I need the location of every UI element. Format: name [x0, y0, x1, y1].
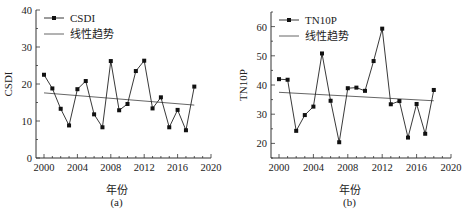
- data-point-marker: [126, 102, 130, 106]
- y-tick-label: 30: [257, 109, 268, 120]
- data-point-marker: [92, 112, 96, 116]
- data-point-marker: [75, 87, 79, 91]
- y-tick-label: 40: [22, 5, 33, 16]
- chart-panel-a: 200020042008201220162020010203040CSDICSD…: [0, 0, 233, 214]
- data-point-marker: [286, 78, 290, 82]
- data-point-marker: [329, 99, 333, 103]
- y-axis-title: TN10P: [237, 69, 249, 101]
- x-tick-label: 2000: [34, 162, 55, 173]
- data-point-marker: [363, 89, 367, 93]
- y-tick-label: 20: [257, 138, 268, 149]
- x-tick-label: 2016: [406, 162, 427, 173]
- data-point-marker: [151, 106, 155, 110]
- data-point-marker: [380, 27, 384, 31]
- trend-line: [279, 92, 434, 100]
- data-point-marker: [176, 108, 180, 112]
- data-point-marker: [67, 123, 71, 127]
- data-point-marker: [311, 105, 315, 109]
- data-point-marker: [415, 102, 419, 106]
- data-point-marker: [167, 125, 171, 129]
- y-tick-label: 60: [257, 22, 268, 33]
- x-tick-label: 2012: [372, 162, 393, 173]
- data-point-marker: [50, 86, 54, 90]
- data-point-marker: [346, 86, 350, 90]
- y-tick-label: 50: [257, 51, 268, 62]
- legend-trend-label: 线性趋势: [305, 29, 349, 43]
- data-point-marker: [277, 77, 281, 81]
- legend-series-label: TN10P: [305, 14, 337, 26]
- data-point-marker: [423, 132, 427, 136]
- y-tick-label: 10: [22, 116, 33, 127]
- y-tick-label: 20: [22, 79, 33, 90]
- data-point-marker: [372, 59, 376, 63]
- data-line: [279, 29, 434, 143]
- x-tick-label: 2000: [269, 162, 290, 173]
- x-tick-label: 2004: [303, 162, 325, 173]
- data-point-marker: [84, 79, 88, 83]
- data-point-marker: [134, 69, 138, 73]
- x-tick-label: 2020: [441, 162, 462, 173]
- data-point-marker: [59, 107, 63, 111]
- panel-label-b: (b): [233, 196, 466, 208]
- y-tick-label: 30: [22, 42, 33, 53]
- data-point-marker: [117, 108, 121, 112]
- x-tick-label: 2016: [167, 162, 188, 173]
- y-axis-title: CSDI: [2, 71, 14, 96]
- x-tick-label: 2012: [134, 162, 155, 173]
- data-point-marker: [109, 59, 113, 63]
- data-line: [44, 61, 194, 131]
- data-point-marker: [320, 51, 324, 55]
- x-tick-label: 2020: [201, 162, 222, 173]
- data-point-marker: [184, 128, 188, 132]
- legend-series-label: CSDI: [70, 12, 95, 24]
- chart-panel-b: 2000200420082012201620202030405060TN10PT…: [233, 0, 466, 214]
- data-point-marker: [406, 136, 410, 140]
- x-tick-label: 2004: [67, 162, 89, 173]
- data-point-marker: [142, 59, 146, 63]
- data-point-marker: [42, 73, 46, 77]
- data-point-marker: [354, 86, 358, 90]
- x-tick-label: 2008: [100, 162, 121, 173]
- data-point-marker: [294, 129, 298, 133]
- data-point-marker: [192, 85, 196, 89]
- data-point-marker: [337, 140, 341, 144]
- data-point-marker: [100, 125, 104, 129]
- trend-line: [44, 93, 194, 105]
- data-point-marker: [389, 102, 393, 106]
- y-tick-label: 40: [257, 80, 268, 91]
- data-point-marker: [159, 95, 163, 99]
- x-axis-title-b: 年份: [233, 181, 466, 197]
- x-tick-label: 2008: [337, 162, 358, 173]
- x-axis-title-a: 年份: [0, 181, 233, 197]
- panel-label-a: (a): [0, 196, 233, 208]
- data-point-marker: [303, 113, 307, 117]
- data-point-marker: [432, 88, 436, 92]
- data-point-marker: [397, 99, 401, 103]
- y-tick-label: 0: [27, 153, 32, 164]
- legend-trend-label: 线性趋势: [70, 27, 114, 41]
